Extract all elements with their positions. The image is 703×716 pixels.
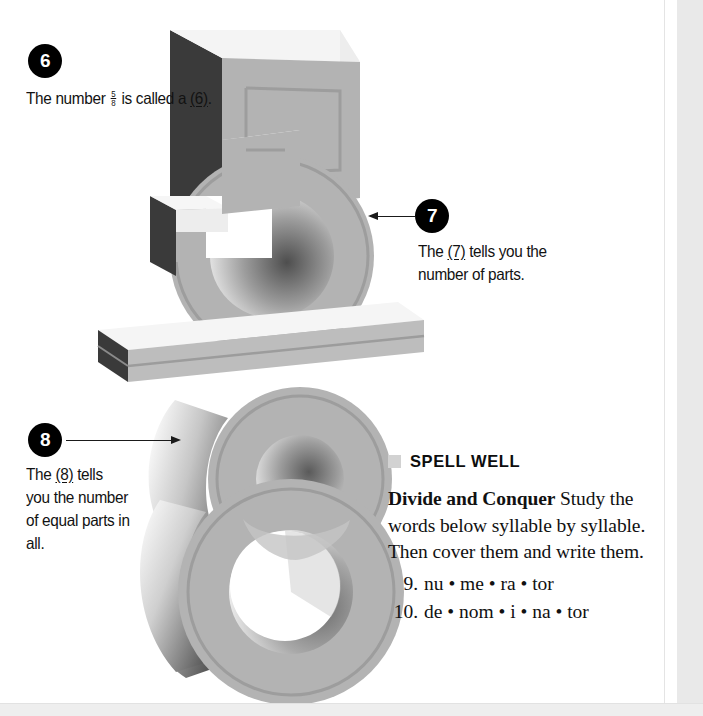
spell-well-lead-in: Divide and Conquer xyxy=(388,488,555,509)
callout-badge-8: 8 xyxy=(28,423,62,457)
callout-6-text-middle: is called a xyxy=(118,89,191,107)
page-bottom-edge xyxy=(0,703,703,716)
spell-well-word-list: 9. nu • me • ra • tor 10. de • nom • i •… xyxy=(388,570,678,626)
list-item-number: 10. xyxy=(388,598,418,626)
callout-text-6: The number 58 is called a (6). xyxy=(26,87,212,110)
list-item-word: nu • me • ra • tor xyxy=(424,570,554,598)
callout-6-blank: (6) xyxy=(190,89,208,107)
page-right-edge xyxy=(677,0,703,716)
callout-text-8: The (8) tells you the number of equal pa… xyxy=(26,463,130,555)
callout-badge-7: 7 xyxy=(415,199,449,233)
callout-8-text-before: The xyxy=(26,465,55,483)
list-item: 9. nu • me • ra • tor xyxy=(388,570,678,598)
fraction-five-eighths: 58 xyxy=(110,90,116,108)
fraction-denominator: 8 xyxy=(110,98,116,108)
callout-6-text-after: . xyxy=(208,89,212,107)
leader-arrow-8 xyxy=(66,440,172,441)
spell-well-header: SPELL WELL xyxy=(388,452,678,471)
textbook-page: 6 The number 58 is called a (6). 7 The (… xyxy=(0,0,703,716)
list-item: 10. de • nom • i • na • tor xyxy=(388,598,678,626)
callout-7-text-before: The xyxy=(418,242,447,260)
callout-text-7: The (7) tells you the number of parts. xyxy=(418,240,585,286)
callout-6-text-before: The number xyxy=(26,89,109,107)
arrow-head-left-icon xyxy=(368,212,378,220)
callout-badge-6: 6 xyxy=(28,44,62,78)
square-bullet-icon xyxy=(388,455,401,468)
spell-well-title: SPELL WELL xyxy=(410,452,520,471)
page-gutter xyxy=(664,0,677,716)
spell-well-panel: SPELL WELL Divide and Conquer Study the … xyxy=(388,452,678,626)
list-item-number: 9. xyxy=(388,570,418,598)
arrow-head-right-icon xyxy=(171,436,181,444)
callout-8-blank: (8) xyxy=(55,465,73,483)
fraction-numerator: 5 xyxy=(110,90,116,99)
leader-arrow-7 xyxy=(377,216,415,217)
spell-well-instructions: Divide and Conquer Study the words below… xyxy=(388,486,678,566)
callout-7-blank: (7) xyxy=(447,242,465,260)
list-item-word: de • nom • i • na • tor xyxy=(424,598,589,626)
